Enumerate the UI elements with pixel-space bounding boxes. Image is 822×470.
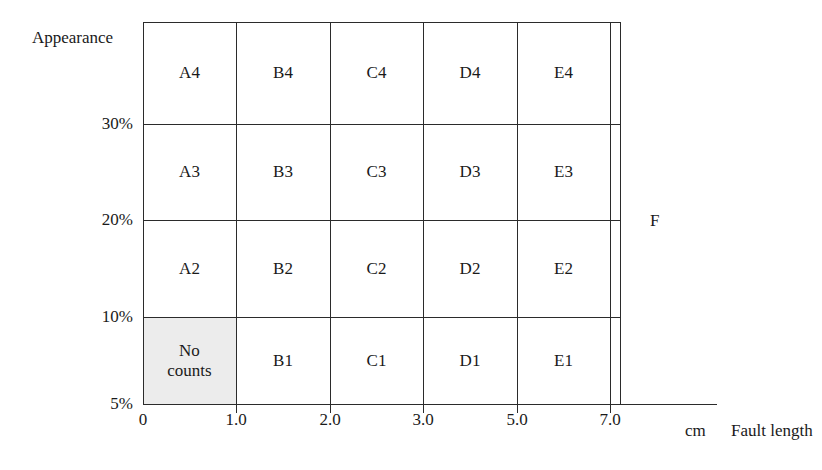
grid-cell: D4 — [423, 22, 517, 124]
grid-cell-label: E1 — [554, 351, 573, 371]
grid-cell-label: D1 — [460, 351, 481, 371]
grid-cell: C2 — [330, 220, 423, 317]
grid-cell-label: E2 — [554, 259, 573, 279]
grid-cell: D1 — [423, 317, 517, 404]
grid-cell: B4 — [236, 22, 330, 124]
x-tick-label-3: 3.0 — [412, 410, 433, 430]
grid-cell-label: A2 — [179, 259, 200, 279]
grid-cell: E2 — [517, 220, 610, 317]
grid-line-horizontal-3 — [143, 317, 620, 318]
grid-cell: D3 — [423, 124, 517, 220]
grid-cell-label: B3 — [273, 162, 293, 182]
grid-cell: A2 — [143, 220, 236, 317]
grid-cell: D2 — [423, 220, 517, 317]
y-tick-label-3: 5% — [83, 394, 139, 414]
grid-line-vertical-1 — [236, 22, 237, 404]
grid-cell-label: C1 — [367, 351, 387, 371]
grid-cell: B3 — [236, 124, 330, 220]
grid-cell: C3 — [330, 124, 423, 220]
grid-line-vertical-2 — [330, 22, 331, 404]
grid-cell-label: C3 — [367, 162, 387, 182]
grid-cell-label: B4 — [273, 63, 293, 83]
grid-cell-label: D4 — [460, 63, 481, 83]
grid-cell-label: A4 — [179, 63, 200, 83]
grid-cell-label: E4 — [554, 63, 573, 83]
grid-cell: B1 — [236, 317, 330, 404]
grid-cell-label: D2 — [460, 259, 481, 279]
x-tick-label-0: 0 — [139, 410, 148, 430]
y-tick-label-2: 10% — [83, 307, 139, 327]
region-f-annotation: F — [650, 211, 659, 231]
grid-cell-label: B1 — [273, 351, 293, 371]
x-tick-label-5: 7.0 — [599, 410, 620, 430]
grid-cell-label: No counts — [167, 341, 211, 380]
y-tick-label-0: 30% — [83, 114, 139, 134]
grid-line-horizontal-0 — [143, 22, 620, 23]
y-axis-title: Appearance — [32, 28, 113, 48]
grid-cell-label: A3 — [179, 162, 200, 182]
grid-line-horizontal-1 — [143, 124, 620, 125]
grid-cell: E1 — [517, 317, 610, 404]
grid-cell-label: C4 — [367, 63, 387, 83]
x-tick-label-2: 2.0 — [319, 410, 340, 430]
grid-line-horizontal-4 — [143, 404, 620, 405]
y-tick-label-1: 20% — [83, 210, 139, 230]
grid-cell: A4 — [143, 22, 236, 124]
grid-cell: C4 — [330, 22, 423, 124]
grid-cell: E3 — [517, 124, 610, 220]
x-tick-label-1: 1.0 — [225, 410, 246, 430]
classification-grid: A4B4C4D4E4A3B3C3D3E3A2B2C2D2E2No countsB… — [143, 22, 620, 404]
chart-canvas: Appearance 30%20%10%5% 01.02.03.05.07.0 … — [0, 0, 822, 470]
grid-line-vertical-5 — [610, 22, 611, 404]
grid-line-horizontal-2 — [143, 220, 620, 221]
grid-cell-label: C2 — [367, 259, 387, 279]
grid-line-vertical-6 — [620, 22, 621, 404]
grid-cell-label: B2 — [273, 259, 293, 279]
grid-line-vertical-0 — [143, 22, 144, 404]
grid-cell: E4 — [517, 22, 610, 124]
grid-line-vertical-4 — [517, 22, 518, 404]
grid-cell: B2 — [236, 220, 330, 317]
x-tick-label-4: 5.0 — [506, 410, 527, 430]
x-axis-title: Fault length — [731, 421, 813, 441]
grid-cell: No counts — [143, 317, 236, 404]
grid-cell: A3 — [143, 124, 236, 220]
grid-line-vertical-3 — [423, 22, 424, 404]
grid-cell: C1 — [330, 317, 423, 404]
grid-cell-label: E3 — [554, 162, 573, 182]
grid-cell-label: D3 — [460, 162, 481, 182]
x-axis-unit-label: cm — [685, 421, 706, 441]
